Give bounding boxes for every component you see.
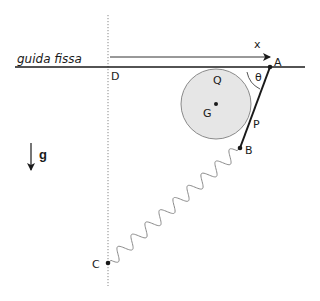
- point-C-label: C: [92, 258, 100, 271]
- gravity-label: g: [39, 147, 47, 162]
- theta-label: θ: [255, 71, 262, 84]
- point-B-label: B: [245, 144, 253, 157]
- point-B-dot: [238, 146, 243, 151]
- center-G-label: G: [203, 107, 212, 120]
- point-A-label: A: [274, 56, 282, 69]
- mechanics-diagram: guida fissa D x A Q G θ P B C g: [0, 0, 320, 301]
- center-G-dot: [214, 102, 218, 106]
- point-Q-label: Q: [213, 74, 222, 87]
- guide-label: guida fissa: [17, 52, 82, 66]
- x-label: x: [254, 38, 261, 51]
- origin-D-label: D: [111, 70, 119, 83]
- spring-BC: [108, 148, 240, 263]
- point-C-dot: [106, 261, 111, 266]
- point-A-dot: [268, 65, 273, 70]
- point-P-label: P: [253, 118, 260, 131]
